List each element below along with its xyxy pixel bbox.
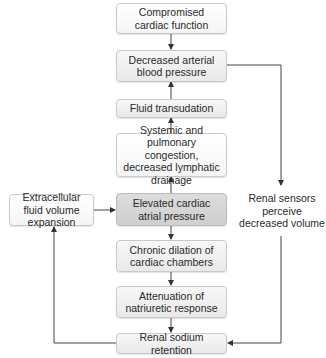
- node-compromised-cardiac-function: Compromised cardiac function: [116, 3, 227, 34]
- node-text: Fluid transudation: [130, 102, 213, 115]
- node-text: Compromised cardiac function: [121, 6, 222, 31]
- node-text: Attenuation of natriuretic response: [121, 290, 222, 315]
- node-text: Renal sodium retention: [121, 331, 222, 356]
- node-renal-sodium-retention: Renal sodium retention: [116, 333, 227, 354]
- node-text: Elevated cardiac atrial pressure: [121, 197, 222, 222]
- node-fluid-transudation: Fluid transudation: [116, 99, 227, 118]
- node-chronic-dilation: Chronic dilation of cardiac chambers: [116, 240, 227, 272]
- node-text: Systemic and pulmonary congestion, decre…: [121, 124, 222, 187]
- node-extracellular-fluid-volume-expansion: Extracellular fluid volume expansion: [9, 194, 94, 226]
- node-text: Extracellular fluid volume expansion: [14, 191, 89, 229]
- node-systemic-pulmonary-congestion: Systemic and pulmonary congestion, decre…: [116, 133, 227, 177]
- node-attenuation-natriuretic-response: Attenuation of natriuretic response: [116, 286, 227, 318]
- node-decreased-arterial-blood-pressure: Decreased arterial blood pressure: [116, 50, 227, 82]
- node-text: Chronic dilation of cardiac chambers: [121, 244, 222, 269]
- node-text: Decreased arterial blood pressure: [121, 54, 222, 79]
- node-elevated-cardiac-atrial-pressure: Elevated cardiac atrial pressure: [116, 193, 227, 226]
- renal-sensors-label: Renal sensors perceive decreased volume: [238, 192, 326, 230]
